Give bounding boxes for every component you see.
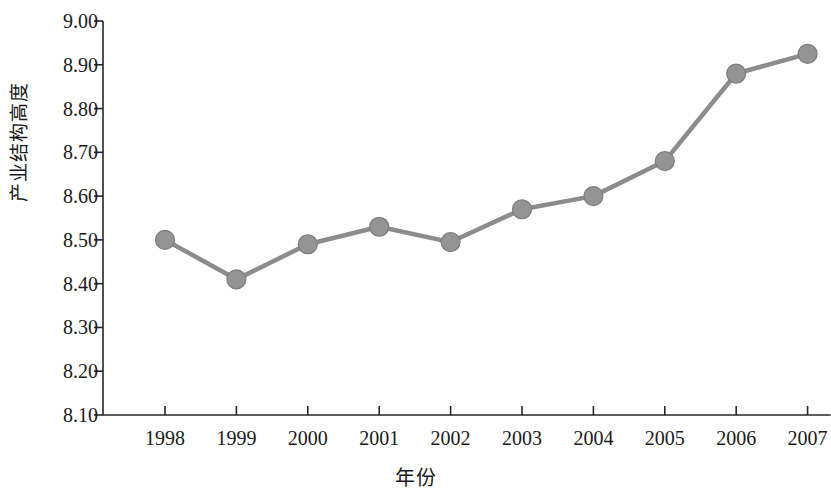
data-point-marker [298, 235, 317, 254]
x-axis-tick-labels: 1998199920002001200220032004200520062007 [0, 428, 831, 458]
y-axis-tick-label: 8.50 [26, 230, 98, 250]
x-axis-tick-label: 2004 [553, 428, 633, 448]
data-point-marker [655, 152, 674, 171]
data-point-marker [370, 217, 389, 236]
x-axis-tick-label: 1998 [125, 428, 205, 448]
y-axis-tick-label: 9.00 [26, 11, 98, 31]
x-axis-tick-label: 2000 [268, 428, 348, 448]
x-axis-title: 年份 [0, 462, 831, 491]
x-axis-tick-label: 2007 [768, 428, 831, 448]
y-axis-tick-label: 8.40 [26, 274, 98, 294]
series-line [165, 54, 808, 279]
y-axis-tick-label: 8.70 [26, 142, 98, 162]
data-point-marker [727, 64, 746, 83]
y-axis-tick-labels: 9.008.908.808.708.608.508.408.308.208.10 [20, 0, 98, 493]
x-axis-tick-label: 2003 [482, 428, 562, 448]
data-point-marker [156, 230, 175, 249]
axis-layer [94, 21, 831, 415]
y-axis-tick-label: 8.90 [26, 55, 98, 75]
x-axis-tick-label: 2005 [625, 428, 705, 448]
y-axis-tick-label: 8.80 [26, 99, 98, 119]
y-axis-tick-label: 8.60 [26, 186, 98, 206]
data-point-marker [513, 200, 532, 219]
y-axis-title: 产业结构高度 [4, 47, 31, 237]
data-series-layer [156, 44, 818, 288]
y-axis-tick-label: 8.20 [26, 361, 98, 381]
x-axis-tick-label: 2006 [696, 428, 776, 448]
y-axis-tick-label: 8.30 [26, 317, 98, 337]
plot-area [0, 0, 831, 493]
x-axis-tick-label: 2002 [411, 428, 491, 448]
data-point-marker [584, 187, 603, 206]
line-chart: 9.008.908.808.708.608.508.408.308.208.10… [0, 0, 831, 493]
data-point-marker [441, 233, 460, 252]
data-point-marker [798, 44, 817, 63]
data-point-marker [227, 270, 246, 289]
x-axis-tick-label: 1999 [196, 428, 276, 448]
x-axis-tick-label: 2001 [339, 428, 419, 448]
y-axis-tick-label: 8.10 [26, 405, 98, 425]
